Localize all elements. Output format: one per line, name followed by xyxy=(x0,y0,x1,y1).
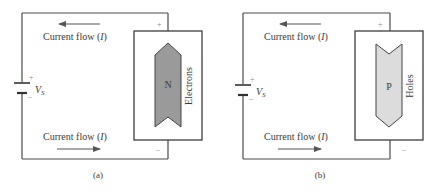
current-flow-label-bottom: Current flow (I) xyxy=(264,131,328,143)
panel-a: + – VS Current flow (I) Current flow (I)… xyxy=(14,13,202,180)
semiconductor-current-diagram: + – VS Current flow (I) Current flow (I)… xyxy=(0,0,437,195)
caption-a: (a) xyxy=(93,170,103,180)
current-flow-label-bottom: Current flow (I) xyxy=(43,131,107,143)
source-voltage-label: VS xyxy=(256,86,266,99)
battery-plus-sign: + xyxy=(250,75,255,84)
carrier-label-electrons: Electrons xyxy=(183,67,194,105)
carrier-label-holes: Holes xyxy=(404,74,415,97)
panel-b: + – VS Current flow (I) Current flow (I)… xyxy=(235,13,423,180)
material-letter-n: N xyxy=(164,79,171,90)
terminal-plus-sign: + xyxy=(157,20,162,29)
current-flow-label-top: Current flow (I) xyxy=(264,31,328,43)
terminal-plus-sign: + xyxy=(378,20,383,29)
terminal-minus-sign: – xyxy=(155,145,161,154)
battery-minus-sign: – xyxy=(27,92,33,101)
source-voltage-label: VS xyxy=(35,84,45,97)
terminal-minus-sign: – xyxy=(401,145,407,154)
caption-b: (b) xyxy=(315,170,326,180)
material-letter-p: P xyxy=(386,81,392,92)
battery-minus-sign: – xyxy=(248,94,254,103)
battery-plus-sign: + xyxy=(29,73,34,82)
current-flow-label-top: Current flow (I) xyxy=(43,31,107,43)
